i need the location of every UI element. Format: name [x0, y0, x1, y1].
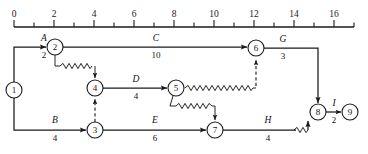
- activity-label-B: B4: [52, 115, 58, 143]
- activity-name-C: C: [153, 33, 160, 43]
- node-label-5: 5: [174, 83, 179, 93]
- activity-name-A: A: [40, 33, 47, 43]
- axis-tick-label: 16: [329, 9, 339, 19]
- float-link-5-7-zigzag: [176, 103, 212, 108]
- nodes: 123456789: [6, 39, 358, 138]
- activity-name-D: D: [132, 74, 140, 84]
- node-3[interactable]: 3: [87, 122, 103, 138]
- activity-duration-C: 10: [152, 50, 162, 60]
- activity-path-G: [264, 48, 318, 103]
- axis-tick-label: 8: [172, 9, 177, 19]
- activity-duration-E: 6: [153, 133, 158, 143]
- activity-name-I: I: [331, 98, 336, 108]
- network-diagram-canvas: 0246810121416: [0, 0, 368, 154]
- axis-tick-label: 14: [289, 9, 299, 19]
- activity-duration-H: 4: [266, 133, 271, 143]
- network-diagram: 0246810121416: [0, 0, 368, 154]
- axis-tick-label: 12: [249, 9, 259, 19]
- axis-tick-label: 2: [52, 9, 57, 19]
- node-label-8: 8: [316, 107, 321, 117]
- activity-name-E: E: [151, 115, 158, 125]
- axis-tick-label: 10: [209, 9, 219, 19]
- node-label-6: 6: [254, 43, 259, 53]
- float-link-2-4-zigzag: [60, 63, 92, 68]
- float-link-2-4-lead: [55, 55, 60, 66]
- node-label-3: 3: [93, 125, 98, 135]
- node-6[interactable]: 6: [248, 40, 264, 56]
- activity-duration-A: 2: [42, 50, 47, 60]
- float-link-5-7-lead: [170, 96, 176, 106]
- axis-tick-label: 4: [92, 9, 97, 19]
- float-link-5-7-arrow: [212, 106, 215, 120]
- axis-label-group: 0246810121416: [12, 9, 339, 19]
- float-link-H-8-zigzag: [294, 127, 308, 132]
- node-7[interactable]: 7: [207, 122, 223, 138]
- axis-tick-group: [14, 20, 354, 27]
- axis-tick-label: 0: [12, 9, 17, 19]
- time-axis: 0246810121416: [12, 9, 354, 27]
- activity-duration-I: 2: [332, 115, 337, 125]
- activity-name-H: H: [264, 115, 273, 125]
- activity-duration-D: 4: [134, 91, 139, 101]
- node-label-1: 1: [12, 85, 17, 95]
- activity-path-B: [14, 98, 86, 130]
- node-4[interactable]: 4: [87, 80, 103, 96]
- activity-labels: A2C10G3I2D4B4E6H4: [40, 33, 336, 143]
- node-label-2: 2: [53, 42, 58, 52]
- axis-tick-label: 6: [132, 9, 137, 19]
- activity-label-E: E6: [151, 115, 158, 143]
- node-8[interactable]: 8: [310, 104, 326, 120]
- node-9[interactable]: 9: [342, 104, 358, 120]
- activity-name-G: G: [280, 34, 287, 44]
- node-2[interactable]: 2: [47, 39, 63, 55]
- node-label-7: 7: [213, 125, 218, 135]
- node-label-4: 4: [93, 83, 98, 93]
- node-5[interactable]: 5: [168, 80, 184, 96]
- float-link-5-6-zigzag: [185, 85, 253, 90]
- activity-name-B: B: [52, 115, 58, 125]
- activity-duration-B: 4: [53, 133, 58, 143]
- node-1[interactable]: 1: [6, 82, 22, 98]
- node-label-9: 9: [348, 107, 353, 117]
- activity-label-H: H4: [264, 115, 273, 143]
- activity-duration-G: 3: [281, 51, 286, 61]
